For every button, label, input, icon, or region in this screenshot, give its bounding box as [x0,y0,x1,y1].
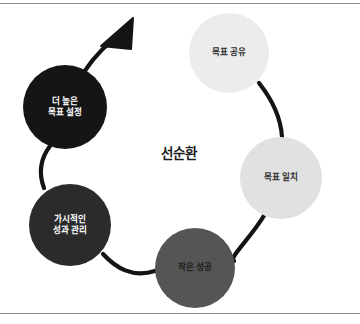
figure-frame: 목표 공유목표 일치작은 성공가시적인 성과 관리더 높은 목표 설정 선순환 [0,0,360,324]
node-circle-set-higher-goals [23,65,107,149]
node-circle-goal-alignment [240,137,322,219]
connector-small-wins-to-visible [103,254,155,273]
virtuous-cycle-diagram [0,0,360,324]
node-circle-goal-sharing [189,13,269,93]
connector-alignment-to-small-wins [233,214,265,261]
arrowhead-layer [101,18,133,49]
arrow-head-icon [101,18,133,49]
connector-visible-to-higher-goals [41,146,50,188]
node-circle-small-wins [155,228,235,308]
connector-sharing-to-alignment [259,83,282,137]
node-circle-layer [23,13,322,308]
node-circle-visible-performance-management [29,184,111,266]
